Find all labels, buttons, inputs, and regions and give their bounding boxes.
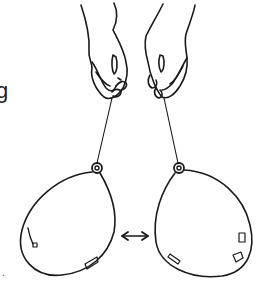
double-arrow-icon (122, 232, 148, 240)
right-hand-icon (145, 4, 195, 98)
right-string (164, 98, 178, 163)
left-hand-icon (81, 3, 127, 98)
right-balloon-icon (155, 163, 252, 277)
balloons-illustration (0, 0, 265, 289)
left-balloon-icon (21, 163, 115, 275)
left-string (97, 98, 112, 163)
